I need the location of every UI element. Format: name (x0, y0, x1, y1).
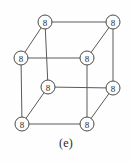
node-label-front-top-right: 8 (111, 84, 116, 94)
graph-node-back-bottom-left: 8 (14, 51, 28, 65)
graph-node-front-bottom-right: 8 (80, 117, 94, 131)
graph-node-back-top-left: 8 (38, 15, 52, 29)
node-label-front-top-left: 8 (46, 83, 51, 93)
graph-edge-connect-top-left (45, 22, 48, 87)
figure-caption: (e) (0, 136, 132, 151)
graph-node-front-bottom-left: 8 (15, 117, 29, 131)
edge-layer (21, 22, 113, 124)
graph-edge-front-top (48, 87, 113, 88)
node-label-back-bottom-right: 8 (85, 54, 90, 64)
graph-node-front-top-left: 8 (41, 80, 55, 94)
node-label-back-bottom-left: 8 (19, 54, 24, 64)
graph-edge-connect-bottom-left (21, 58, 22, 124)
graph-node-back-bottom-right: 8 (80, 51, 94, 65)
node-label-back-top-right: 8 (111, 18, 116, 28)
node-label-back-top-left: 8 (43, 18, 48, 28)
figure-panel: 88888888 (e) (0, 0, 132, 164)
graph-node-front-top-right: 8 (106, 81, 120, 95)
graph-node-back-top-right: 8 (106, 15, 120, 29)
node-label-front-bottom-right: 8 (85, 120, 90, 130)
node-label-front-bottom-left: 8 (20, 120, 25, 130)
